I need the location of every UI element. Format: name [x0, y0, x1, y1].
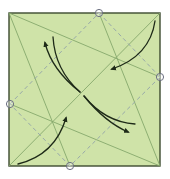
marker-right: [156, 73, 163, 80]
marker-bottom: [66, 162, 73, 169]
origami-diagram: [0, 0, 170, 179]
marker-top: [95, 9, 102, 16]
marker-left: [6, 100, 13, 107]
